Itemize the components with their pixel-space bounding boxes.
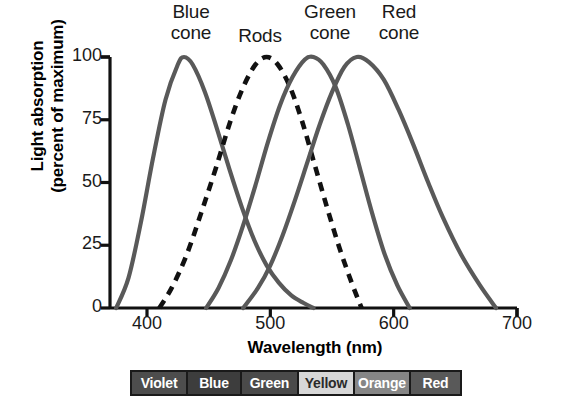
spectrum-band-yellow: Yellow [299, 372, 353, 394]
absorption-curve-green-cone [206, 57, 410, 308]
absorption-curve-red-cone [243, 57, 496, 308]
x-tick-label: 500 [240, 313, 300, 334]
axes [101, 57, 517, 317]
visible-spectrum-bar: VioletBlueGreenYellowOrangeRed [130, 370, 462, 396]
absorption-curves [116, 57, 496, 308]
x-tick-label: 600 [364, 313, 424, 334]
spectrum-band-green: Green [242, 372, 297, 394]
spectral-sensitivity-figure: Blue cone Rods Green cone Red cone 10075… [0, 0, 561, 409]
y-axis-title: Light absorption (percent of maximum) [28, 0, 68, 246]
x-axis-title: Wavelength (nm) [110, 338, 520, 358]
curve-label-rods: Rods [229, 26, 291, 47]
curve-label-blue-cone: Blue cone [155, 2, 227, 43]
x-axis-tick-labels: 400500600700 [0, 313, 561, 341]
x-tick-label: 700 [487, 313, 547, 334]
curve-label-green-cone: Green cone [293, 2, 367, 43]
spectrum-band-violet: Violet [132, 372, 186, 394]
spectrum-band-red: Red [411, 372, 460, 394]
spectrum-band-blue: Blue [188, 372, 240, 394]
spectrum-band-orange: Orange [355, 372, 409, 394]
x-tick-label: 400 [117, 313, 177, 334]
curve-label-red-cone: Red cone [366, 2, 432, 43]
